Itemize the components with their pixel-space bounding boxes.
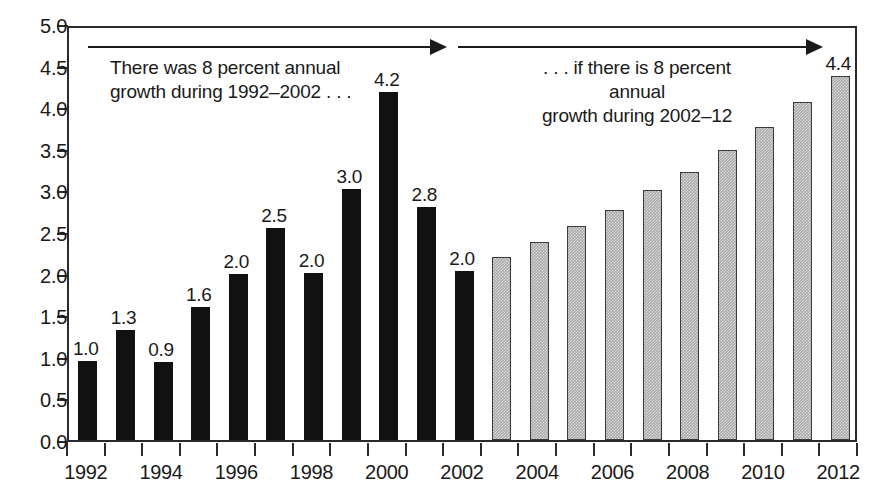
y-axis-tick-label: 2.5: [21, 223, 67, 246]
right-arrow-line: [458, 46, 808, 48]
bar-2008: [680, 172, 699, 440]
x-axis-tick-mark: [781, 443, 783, 456]
left-arrow-head-icon: [430, 39, 447, 55]
x-axis-tick-label-1998: 1998: [290, 461, 333, 484]
x-axis-tick-mark: [706, 443, 708, 456]
x-axis-tick-mark: [480, 443, 482, 456]
x-axis-tick-mark: [216, 443, 218, 456]
y-axis-tick-label: 0.0: [21, 431, 67, 454]
bar-value-label-1998: 2.0: [299, 250, 325, 272]
x-axis-tick-mark: [254, 443, 256, 456]
bar-value-label-1997: 2.5: [261, 205, 287, 227]
bar-value-label-1995: 1.6: [186, 284, 212, 306]
y-axis-tick-label: 0.5: [21, 389, 67, 412]
bar-2009: [718, 150, 737, 440]
bar-value-label-2012: 4.4: [825, 53, 851, 75]
y-axis-tick-label: 2.0: [21, 264, 67, 287]
y-axis-tick-label: 3.5: [21, 139, 67, 162]
x-axis-tick-mark: [141, 443, 143, 456]
x-axis-tick-label-1996: 1996: [215, 461, 258, 484]
bar-1997: [266, 228, 285, 440]
bar-2011: [793, 102, 812, 440]
bar-value-label-1999: 3.0: [336, 166, 362, 188]
x-axis-tick-mark: [593, 443, 595, 456]
y-axis-tick-label: 4.0: [21, 98, 67, 121]
left-annotation-text: There was 8 percent annual growth during…: [110, 56, 351, 104]
bar-2004: [530, 242, 549, 440]
x-axis-tick-mark: [630, 443, 632, 456]
x-axis-tick-label-2002: 2002: [440, 461, 483, 484]
bar-2012: [831, 76, 850, 440]
x-axis-tick-mark: [405, 443, 407, 456]
bar-1995: [191, 307, 210, 440]
y-axis: 0.00.51.01.52.02.53.03.54.04.55.0: [0, 0, 67, 497]
bar-1992: [78, 361, 97, 440]
bar-2003: [492, 257, 511, 440]
x-axis-tick-label-1994: 1994: [139, 461, 182, 484]
bar-2007: [643, 190, 662, 440]
x-axis-tick-label-2012: 2012: [817, 461, 860, 484]
x-axis-tick-mark: [442, 443, 444, 456]
bar-value-label-2001: 2.8: [412, 184, 438, 206]
x-axis-tick-mark: [818, 443, 820, 456]
right-arrow-head-icon: [806, 39, 823, 55]
x-axis-tick-mark: [856, 443, 858, 456]
x-axis-tick-label-2006: 2006: [591, 461, 634, 484]
bar-value-label-1994: 0.9: [148, 339, 174, 361]
x-axis-tick-label-2008: 2008: [666, 461, 709, 484]
y-axis-tick-label: 5.0: [21, 15, 67, 38]
bar-1994: [154, 362, 173, 440]
y-axis-tick-label: 1.5: [21, 306, 67, 329]
bar-2000: [379, 92, 398, 440]
bar-value-label-2000: 4.2: [374, 69, 400, 91]
bar-2005: [567, 226, 586, 440]
x-axis-tick-mark: [66, 443, 68, 456]
x-axis-tick-mark: [179, 443, 181, 456]
bar-value-label-2002: 2.0: [449, 248, 475, 270]
y-axis-tick-label: 1.0: [21, 347, 67, 370]
x-axis-tick-mark: [367, 443, 369, 456]
x-axis-tick-label-1992: 1992: [64, 461, 107, 484]
y-axis-tick-label: 3.0: [21, 181, 67, 204]
bar-value-label-1996: 2.0: [224, 251, 250, 273]
x-axis-tick-mark: [104, 443, 106, 456]
x-axis-tick-mark: [743, 443, 745, 456]
x-axis-tick-label-2004: 2004: [516, 461, 559, 484]
bar-2002: [455, 271, 474, 440]
left-arrow-line: [88, 46, 432, 48]
bar-1998: [304, 273, 323, 440]
bar-2010: [755, 127, 774, 440]
x-axis-tick-mark: [329, 443, 331, 456]
bar-chart: 0.00.51.01.52.02.53.03.54.04.55.0 1.01.3…: [0, 0, 871, 497]
bar-value-label-1993: 1.3: [111, 307, 137, 329]
bar-1993: [116, 330, 135, 440]
bar-1996: [229, 274, 248, 440]
bar-value-label-1992: 1.0: [73, 338, 99, 360]
x-axis-tick-label-2010: 2010: [741, 461, 784, 484]
right-annotation-text: . . . if there is 8 percent annual growt…: [520, 56, 754, 128]
x-axis-tick-label-2000: 2000: [365, 461, 408, 484]
y-axis-tick-label: 4.5: [21, 56, 67, 79]
bar-2006: [605, 210, 624, 440]
x-axis-tick-mark: [555, 443, 557, 456]
x-axis-tick-mark: [668, 443, 670, 456]
bar-2001: [417, 207, 436, 440]
x-axis-tick-mark: [292, 443, 294, 456]
bar-1999: [342, 189, 361, 440]
x-axis-tick-mark: [517, 443, 519, 456]
